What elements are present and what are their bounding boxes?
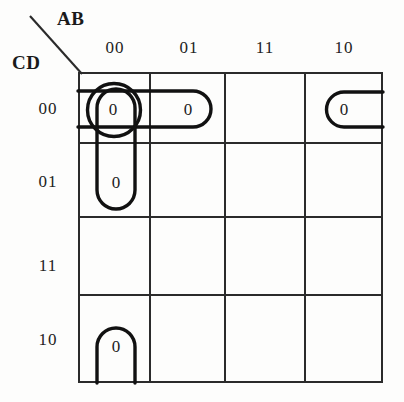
rows-variable-label: CD [12, 52, 40, 74]
cell-value-00-00: 0 [102, 99, 124, 121]
row-header-2: 11 [26, 256, 70, 276]
cell-value-10-00: 0 [105, 336, 127, 358]
cell-value-00-10: 0 [333, 99, 355, 121]
row-header-1: 01 [26, 172, 70, 192]
row-header-3: 10 [26, 330, 70, 350]
column-header-3: 10 [307, 38, 381, 58]
row-header-0: 00 [26, 99, 70, 119]
column-header-2: 11 [228, 38, 302, 58]
cell-value-01-00: 0 [105, 172, 127, 194]
column-header-1: 01 [152, 38, 226, 58]
columns-variable-label: AB [57, 8, 84, 30]
column-header-0: 00 [78, 38, 152, 58]
cell-value-00-01: 0 [177, 99, 199, 121]
karnaugh-map-figure: AB CD 00 01 11 10 00 01 11 10 [0, 0, 404, 402]
